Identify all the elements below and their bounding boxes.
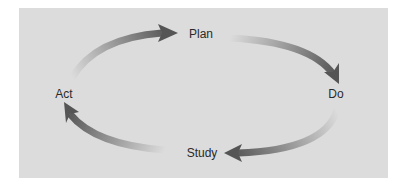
- arrow-do-to-study-icon: [224, 110, 337, 162]
- pdsa-cycle-diagram: Plan Do Study Act: [0, 0, 406, 188]
- stage-label-study: Study: [187, 146, 218, 160]
- arrow-study-to-act-icon: [64, 102, 165, 150]
- stage-label-act: Act: [55, 87, 72, 101]
- arrow-act-to-plan-icon: [72, 24, 178, 78]
- arrow-plan-to-do-icon: [230, 38, 339, 84]
- stage-label-do: Do: [328, 87, 343, 101]
- stage-label-plan: Plan: [189, 27, 213, 41]
